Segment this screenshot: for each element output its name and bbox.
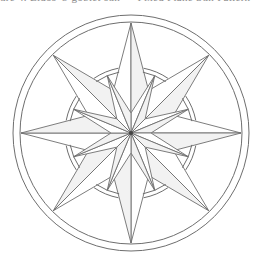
compass-rose-diagram xyxy=(0,0,264,268)
center-dot xyxy=(129,131,133,135)
center-dot-circle xyxy=(129,131,133,135)
